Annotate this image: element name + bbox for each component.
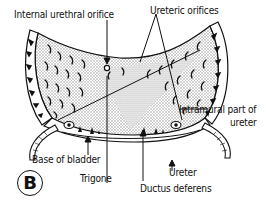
label-internal-urethral-orifice: Internal urethral orifice [14,8,114,20]
label-ureteric-orifices: Ureteric orifices [150,4,219,16]
label-intramural-part-line2: ureter [230,116,257,128]
label-ductus-deferens: Ductus deferens [140,182,211,194]
urethral-orifice-mark [104,65,109,70]
label-trigone: Trigone [80,172,112,184]
label-base-of-bladder: Base of bladder [32,153,100,165]
ductus-deferens-left [64,122,74,129]
right-ureter-tube [202,123,230,158]
ductus-deferens-right [171,122,181,129]
panel-letter-badge: B [17,170,43,196]
label-ureter: Ureter [169,166,196,178]
bladder-trigone-diagram: Internal urethral orifice Ureteric orifi… [0,0,266,203]
bladder-illustration [0,0,266,203]
label-intramural-part-line1: Intramural part of [179,103,256,115]
